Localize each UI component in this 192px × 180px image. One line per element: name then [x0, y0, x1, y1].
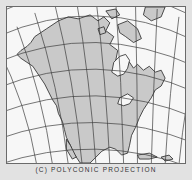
north-america-mainland [17, 15, 165, 163]
polyconic-map [7, 7, 185, 163]
figure-caption: (C) POLYCONIC PROJECTION [0, 166, 192, 173]
map-frame [6, 6, 186, 164]
baffin-island [118, 21, 142, 43]
greenland-tip [143, 7, 165, 21]
